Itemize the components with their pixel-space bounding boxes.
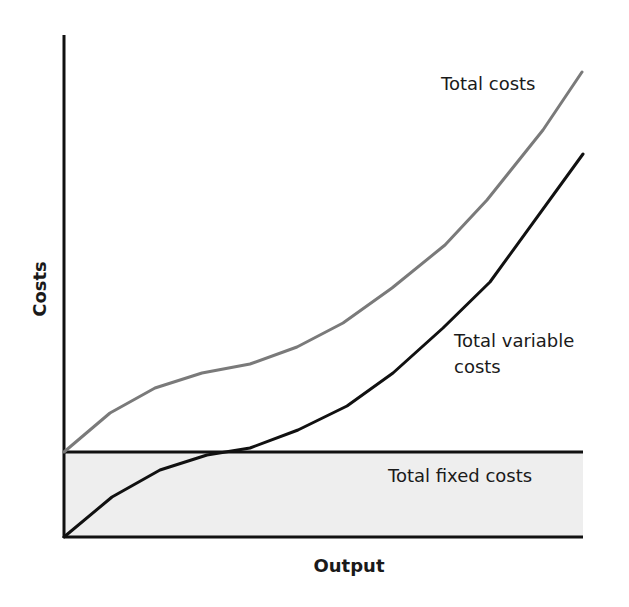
total-variable-costs-label-line2: costs xyxy=(454,356,501,377)
total-variable-costs-label-line1: Total variable xyxy=(453,330,574,351)
cost-curves-chart: Total costs Total variable costs Total f… xyxy=(0,0,629,607)
total-fixed-costs-label: Total fixed costs xyxy=(387,465,532,486)
y-axis-label: Costs xyxy=(29,261,50,317)
total-costs-label: Total costs xyxy=(440,73,535,94)
x-axis-label: Output xyxy=(313,555,384,576)
chart-svg: Total costs Total variable costs Total f… xyxy=(0,0,629,607)
